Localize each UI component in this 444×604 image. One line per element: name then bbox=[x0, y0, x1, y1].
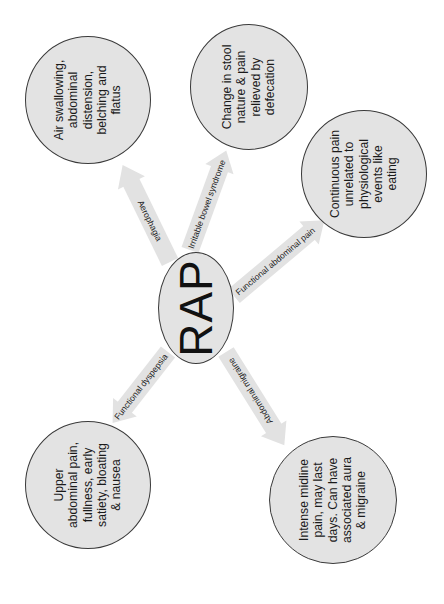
node-text-aerophagia: Air swallowing, abdominal distension, be… bbox=[52, 40, 123, 160]
arrow-label-aerophagia: Aerophagia bbox=[125, 180, 174, 262]
node-functional-abdominal-pain: Continuous pain unrelated to physiologic… bbox=[301, 110, 427, 238]
arrow-label-ibs: Irritable bowel syndrome bbox=[184, 163, 227, 250]
rap-diagram: Aerophagia Irritable bowel syndrome Func… bbox=[0, 0, 444, 604]
node-text-fap: Continuous pain unrelated to physiologic… bbox=[328, 114, 399, 234]
node-aerophagia: Air swallowing, abdominal distension, be… bbox=[25, 36, 151, 164]
node-irritable-bowel-syndrome: Change in stool nature & pain relieved b… bbox=[190, 24, 308, 150]
node-functional-dyspepsia: Upper abdominal pain, fullness, early sa… bbox=[25, 421, 151, 549]
center-node-rap: RAP bbox=[158, 252, 234, 364]
center-label: RAP bbox=[173, 259, 219, 357]
node-abdominal-migraine: Intense midline pain, may last days. Can… bbox=[269, 436, 397, 564]
node-text-functional-dyspepsia: Upper abdominal pain, fullness, early sa… bbox=[52, 425, 123, 545]
arrow-label-abdominal-migraine: Abdominal migraine bbox=[222, 352, 278, 431]
arrow-label-functional-dyspepsia: Functional dyspepsia bbox=[110, 349, 173, 424]
arrow-label-fap: Functional abdominal pain bbox=[231, 223, 320, 301]
node-text-ibs: Change in stool nature & pain relieved b… bbox=[220, 27, 277, 147]
node-text-abdominal-migraine: Intense midline pain, may last days. Can… bbox=[297, 440, 368, 560]
